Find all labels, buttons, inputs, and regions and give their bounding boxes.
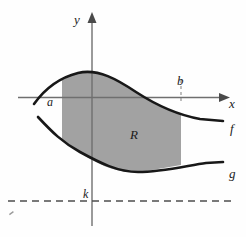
y-axis-arrowhead — [88, 12, 97, 23]
figure-canvas: y x a b R f g k — [0, 0, 246, 237]
label-curve-g: g — [229, 167, 236, 180]
x-axis-label: x — [229, 97, 235, 110]
y-axis-label: y — [74, 13, 80, 26]
label-upper-limit-b: b — [177, 74, 184, 87]
label-lower-limit-a: a — [47, 96, 53, 108]
label-curve-f: f — [230, 122, 234, 135]
label-region-R: R — [130, 128, 138, 141]
figure-svg — [0, 0, 246, 237]
scan-speck — [9, 211, 14, 215]
label-line-k: k — [83, 188, 88, 200]
